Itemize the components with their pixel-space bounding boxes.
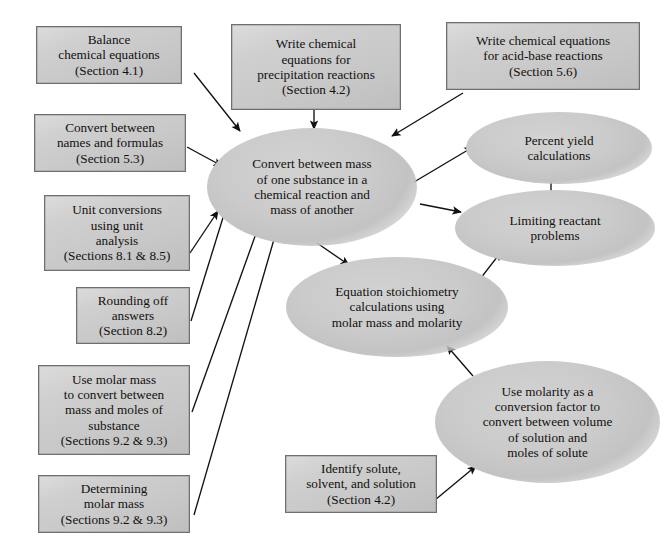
node-label: Determining molar mass (Sections 9.2 & 9…	[58, 481, 171, 527]
node-rounding-off[interactable]: Rounding off answers (Section 8.2)	[76, 287, 190, 344]
node-label: Limiting reactant problems	[499, 213, 610, 244]
node-convert-mass[interactable]: Convert between mass of one substance in…	[207, 128, 417, 246]
edge-solute-to-molarity	[435, 466, 476, 500]
concept-map-diagram: Balance chemical equations (Section 4.1)…	[0, 0, 670, 556]
node-equation-stoichiometry[interactable]: Equation stoichiometry calculations usin…	[286, 257, 508, 357]
node-label: Identify solute, solvent, and solution (…	[303, 461, 419, 507]
node-label: Balance chemical equations (Section 4.1)	[55, 32, 162, 78]
node-names-formulas[interactable]: Convert between names and formulas (Sect…	[34, 114, 186, 172]
node-label: Use molar mass to convert between mass a…	[58, 372, 171, 449]
node-molarity-conversion[interactable]: Use molarity as a conversion factor to c…	[435, 361, 660, 483]
node-label: Equation stoichiometry calculations usin…	[322, 284, 473, 330]
edge-convert-to-limiting-reactant	[420, 204, 461, 212]
node-label: Rounding off answers (Section 8.2)	[95, 293, 171, 339]
node-label: Use molarity as a conversion factor to c…	[473, 384, 623, 461]
edge-convert-to-percent-yield	[414, 147, 473, 182]
node-label: Write chemical equations for acid-base r…	[473, 33, 613, 79]
node-limiting-reactant[interactable]: Limiting reactant problems	[455, 190, 655, 266]
node-precipitation-equations[interactable]: Write chemical equations for precipitati…	[231, 24, 401, 110]
edge-convert-to-stoichiometry	[317, 243, 349, 265]
edge-molarmass-to-convert	[192, 228, 258, 412]
node-acid-base-equations[interactable]: Write chemical equations for acid-base r…	[446, 22, 640, 90]
node-label: Write chemical equations for precipitati…	[254, 36, 378, 97]
node-percent-yield[interactable]: Percent yield calculations	[466, 112, 652, 184]
node-identify-solute[interactable]: Identify solute, solvent, and solution (…	[285, 455, 437, 513]
node-label: Convert between mass of one substance in…	[242, 156, 381, 217]
node-molar-mass-convert[interactable]: Use molar mass to convert between mass a…	[38, 365, 190, 455]
node-unit-conversions[interactable]: Unit conversions using unit analysis (Se…	[44, 195, 190, 271]
edge-acidbase-to-convert	[392, 93, 463, 136]
node-balance-equations[interactable]: Balance chemical equations (Section 4.1)	[36, 26, 182, 84]
node-determining-molar-mass[interactable]: Determining molar mass (Sections 9.2 & 9…	[38, 475, 190, 533]
node-label: Unit conversions using unit analysis (Se…	[61, 202, 174, 263]
node-label: Percent yield calculations	[514, 133, 603, 164]
node-label: Convert between names and formulas (Sect…	[54, 120, 166, 166]
